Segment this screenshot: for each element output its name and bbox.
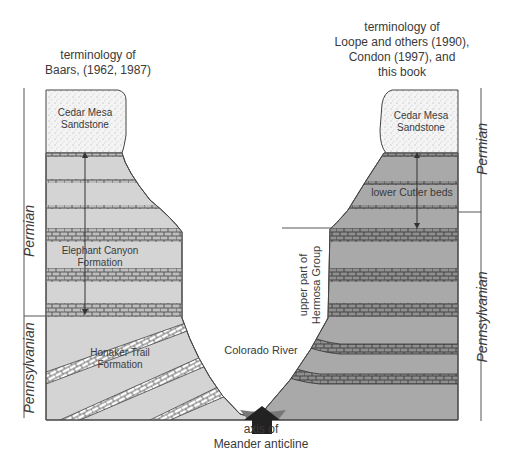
label-line: Sandstone — [384, 122, 458, 134]
label-line: Elephant Canyon — [50, 245, 150, 257]
right-header-line-3: Condon (1997), and — [312, 50, 492, 65]
hermosa-label: upper part of Hermosa Group — [297, 235, 327, 335]
label-line: Formation — [80, 359, 160, 371]
left-pennsylvanian-label: Pennsylvanian — [21, 313, 39, 423]
right-pennsylvanian-label: Pennsylvanian — [474, 262, 492, 372]
honaker-trail-label: Honaker Trail Formation — [80, 347, 160, 371]
elephant-canyon-label: Elephant Canyon Formation — [50, 245, 150, 269]
label-line: axis of — [196, 422, 326, 437]
label-line: Formation — [50, 257, 150, 269]
label-line: Hermosa Group — [310, 235, 323, 335]
left-header-line-1: terminology of — [18, 48, 178, 63]
lower-cutler-label: lower Cutler beds — [366, 186, 458, 198]
colorado-river-label: Colorado River — [216, 344, 306, 356]
right-header-line-4: this book — [312, 65, 492, 80]
right-header-line-2: Loope and others (1990), — [312, 35, 492, 50]
label-line: lower Cutler beds — [371, 186, 453, 198]
label-line: Sandstone — [50, 119, 120, 131]
left-terminology-header: terminology of Baars, (1962, 1987) — [18, 48, 178, 78]
right-terminology-header: terminology of Loope and others (1990), … — [312, 20, 492, 80]
axis-label: axis of Meander anticline — [196, 422, 326, 452]
right-section — [262, 90, 460, 420]
label-line: Cedar Mesa — [384, 110, 458, 122]
left-header-line-2: Baars, (1962, 1987) — [18, 63, 178, 78]
left-cedar-mesa-label: Cedar Mesa Sandstone — [50, 107, 120, 131]
right-cedar-mesa-label: Cedar Mesa Sandstone — [384, 110, 458, 134]
right-header-line-1: terminology of — [312, 20, 492, 35]
label-line: Cedar Mesa — [50, 107, 120, 119]
label-line: upper part of — [297, 235, 310, 335]
label-line: Meander anticline — [196, 437, 326, 452]
left-permian-label: Permian — [21, 191, 39, 271]
label-line: Honaker Trail — [80, 347, 160, 359]
right-permian-label: Permian — [474, 109, 492, 189]
